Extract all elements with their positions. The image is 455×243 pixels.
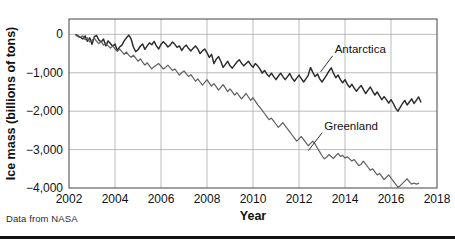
x-tick-label: 2010 <box>240 192 267 206</box>
x-tick-label: 2012 <box>286 192 313 206</box>
x-axis-tick-labels: 200220042006200820102012201420162018 <box>56 192 451 206</box>
chart-canvas: 0−1,000−2,000−3,000−4,000 20022004200620… <box>0 0 455 243</box>
x-tick-label: 2008 <box>194 192 221 206</box>
x-tick-label: 2006 <box>148 192 175 206</box>
x-axis-title: Year <box>240 209 267 223</box>
y-tick-label: −1,000 <box>26 66 63 80</box>
annotation-label-greenland: Greenland <box>324 120 378 132</box>
y-tick-label: −3,000 <box>26 143 63 157</box>
x-tick-label: 2016 <box>378 192 405 206</box>
ice-mass-chart-figure: 0−1,000−2,000−3,000−4,000 20022004200620… <box>0 0 455 243</box>
y-tick-label: −2,000 <box>26 104 63 118</box>
annotation-label-antarctica: Antarctica <box>335 43 387 55</box>
y-tick-label: 0 <box>56 27 63 41</box>
x-tick-label: 2002 <box>56 192 83 206</box>
y-axis-tick-labels: 0−1,000−2,000−3,000−4,000 <box>26 27 63 195</box>
bottom-divider <box>0 236 455 239</box>
x-tick-label: 2004 <box>102 192 129 206</box>
y-axis-title: Ice mass (billions of tons) <box>4 27 18 181</box>
source-note: Data from NASA <box>6 213 78 224</box>
x-tick-label: 2018 <box>424 192 451 206</box>
x-tick-label: 2014 <box>332 192 359 206</box>
